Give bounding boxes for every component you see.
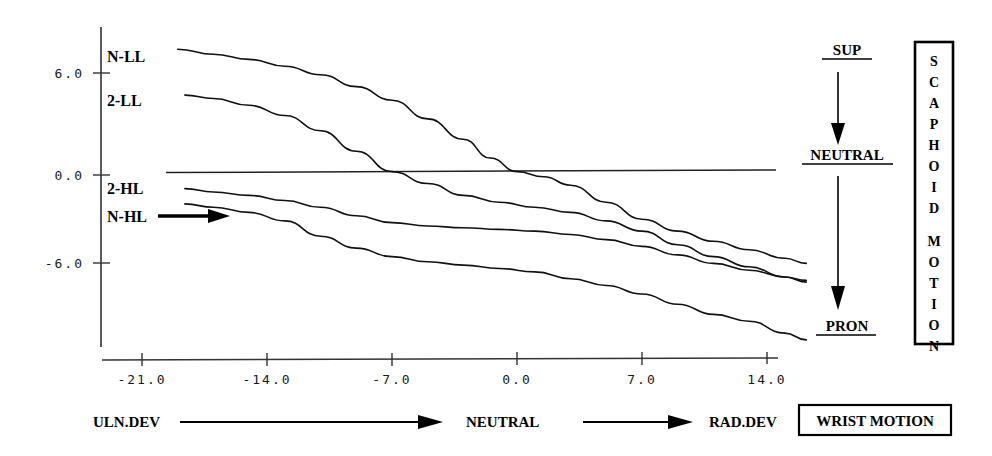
x-tick-label-neg21: -21.0	[117, 372, 166, 387]
scaphoid-letter: O	[929, 255, 940, 270]
scaphoid-letter: I	[931, 297, 936, 312]
forearm-label-sup: SUP	[833, 42, 861, 58]
scaphoid-motion-figure: 6.0 0.0 -6.0 -21.0 -14.0 -7.0 0.0 7.0 14…	[0, 0, 992, 456]
caption-arrow-left-icon	[180, 415, 443, 429]
scaphoid-letter: C	[929, 75, 939, 90]
arrow-down-neutral-to-pron-icon	[831, 176, 845, 310]
curve-2-ll	[185, 95, 806, 282]
y-axis-group: 6.0 0.0 -6.0	[45, 27, 110, 347]
scaphoid-motion-box: SCAPHOIDMOTION	[915, 42, 953, 354]
curve-labels-group: N-LL 2-LL 2-HL N-HL	[107, 48, 230, 225]
x-tick-label-neg7: -7.0	[372, 372, 411, 387]
curve-label-2-ll: 2-LL	[107, 92, 142, 109]
scaphoid-letter: O	[929, 318, 940, 333]
caption-label-uln-dev: ULN.DEV	[93, 414, 160, 430]
curve-label-n-ll: N-LL	[107, 48, 145, 65]
arrow-down-sup-to-neutral-icon	[831, 72, 845, 145]
wrist-motion-caption: ULN.DEV NEUTRAL RAD.DEV WRIST MOTION	[93, 405, 951, 435]
y-tick-label-0: 0.0	[55, 168, 84, 183]
scaphoid-letter: P	[930, 117, 939, 132]
scaphoid-letter: I	[931, 180, 936, 195]
caption-label-neutral: NEUTRAL	[466, 414, 539, 430]
scaphoid-letter: H	[929, 138, 940, 153]
zero-reference-line	[166, 170, 776, 173]
x-tick-label-7: 7.0	[627, 372, 656, 387]
x-tick-label-0: 0.0	[502, 372, 531, 387]
caption-arrow-right-icon	[583, 415, 693, 429]
forearm-rotation-panel: SUP NEUTRAL PRON	[802, 42, 893, 335]
forearm-label-pron: PRON	[826, 318, 869, 334]
scaphoid-letter: M	[927, 234, 940, 249]
curve-n-ll	[178, 49, 807, 263]
figure-root: 6.0 0.0 -6.0 -21.0 -14.0 -7.0 0.0 7.0 14…	[0, 0, 992, 456]
scaphoid-letter: O	[929, 159, 940, 174]
curve-label-n-hl: N-HL	[107, 208, 147, 225]
curve-label-2-hl: 2-HL	[107, 180, 143, 197]
y-tick-label-6: 6.0	[55, 66, 84, 81]
forearm-label-neutral: NEUTRAL	[810, 147, 883, 163]
scaphoid-letter: A	[929, 96, 940, 111]
x-axis-group: -21.0 -14.0 -7.0 0.0 7.0 14.0	[102, 352, 787, 387]
y-tick-label-neg6: -6.0	[45, 256, 84, 271]
wrist-motion-box-label: WRIST MOTION	[816, 413, 934, 429]
scaphoid-motion-letters: SCAPHOIDMOTION	[927, 54, 940, 354]
data-curves-group	[178, 49, 807, 340]
scaphoid-letter: D	[929, 201, 939, 216]
curve-n-hl	[185, 204, 806, 340]
x-axis-line	[102, 358, 778, 360]
x-tick-label-neg14: -14.0	[242, 372, 291, 387]
x-tick-label-14: 14.0	[747, 372, 786, 387]
scaphoid-letter: N	[929, 339, 939, 354]
scaphoid-letter: T	[929, 276, 939, 291]
scaphoid-letter: S	[930, 54, 938, 69]
caption-label-rad-dev: RAD.DEV	[709, 414, 777, 430]
n-hl-pointer-arrow-icon	[158, 209, 230, 223]
